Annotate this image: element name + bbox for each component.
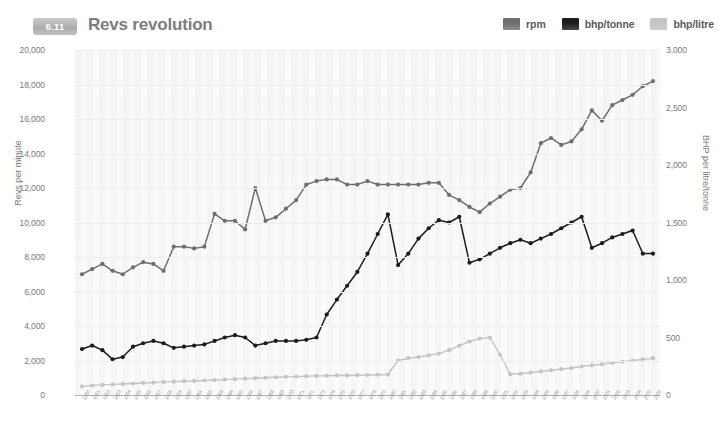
data-point-marker[interactable] (376, 373, 380, 377)
data-point-marker[interactable] (620, 98, 624, 102)
data-point-marker[interactable] (202, 245, 206, 249)
data-point-marker[interactable] (437, 181, 441, 185)
data-point-marker[interactable] (212, 339, 216, 343)
data-point-marker[interactable] (590, 363, 594, 367)
data-point-marker[interactable] (498, 246, 502, 250)
data-point-marker[interactable] (620, 232, 624, 236)
data-point-marker[interactable] (539, 141, 543, 145)
data-point-marker[interactable] (192, 379, 196, 383)
data-point-marker[interactable] (376, 232, 380, 236)
data-point-marker[interactable] (263, 376, 267, 380)
data-point-marker[interactable] (355, 373, 359, 377)
data-point-marker[interactable] (161, 380, 165, 384)
data-point-marker[interactable] (518, 372, 522, 376)
data-point-marker[interactable] (631, 93, 635, 97)
data-point-marker[interactable] (151, 262, 155, 266)
data-point-marker[interactable] (151, 339, 155, 343)
data-point-marker[interactable] (233, 333, 237, 337)
data-point-marker[interactable] (508, 372, 512, 376)
data-point-marker[interactable] (569, 366, 573, 370)
data-point-marker[interactable] (651, 79, 655, 83)
data-point-marker[interactable] (335, 297, 339, 301)
data-point-marker[interactable] (529, 370, 533, 374)
data-point-marker[interactable] (304, 374, 308, 378)
data-point-marker[interactable] (416, 355, 420, 359)
data-point-marker[interactable] (447, 193, 451, 197)
data-point-marker[interactable] (314, 374, 318, 378)
data-point-marker[interactable] (314, 179, 318, 183)
data-point-marker[interactable] (100, 348, 104, 352)
data-point-marker[interactable] (467, 339, 471, 343)
data-point-marker[interactable] (406, 251, 410, 255)
data-point-marker[interactable] (274, 215, 278, 219)
data-point-marker[interactable] (559, 367, 563, 371)
data-point-marker[interactable] (253, 376, 257, 380)
data-point-marker[interactable] (141, 260, 145, 264)
data-point-marker[interactable] (365, 251, 369, 255)
legend-item-bhp-tonne[interactable]: bhp/tonne (562, 18, 635, 30)
data-point-marker[interactable] (304, 338, 308, 342)
data-point-marker[interactable] (488, 335, 492, 339)
data-point-marker[interactable] (416, 182, 420, 186)
data-point-marker[interactable] (549, 136, 553, 140)
data-point-marker[interactable] (243, 227, 247, 231)
data-point-marker[interactable] (335, 177, 339, 181)
data-point-marker[interactable] (437, 352, 441, 356)
data-point-marker[interactable] (172, 380, 176, 384)
data-point-marker[interactable] (580, 215, 584, 219)
data-point-marker[interactable] (161, 341, 165, 345)
data-point-marker[interactable] (539, 237, 543, 241)
data-point-marker[interactable] (233, 377, 237, 381)
data-point-marker[interactable] (498, 353, 502, 357)
data-point-marker[interactable] (110, 269, 114, 273)
data-point-marker[interactable] (355, 182, 359, 186)
data-point-marker[interactable] (406, 182, 410, 186)
data-point-marker[interactable] (253, 343, 257, 347)
data-point-marker[interactable] (529, 170, 533, 174)
data-point-marker[interactable] (212, 212, 216, 216)
data-point-marker[interactable] (457, 198, 461, 202)
legend-item-rpm[interactable]: rpm (503, 18, 546, 30)
data-point-marker[interactable] (549, 232, 553, 236)
data-point-marker[interactable] (641, 251, 645, 255)
data-point-marker[interactable] (365, 373, 369, 377)
data-point-marker[interactable] (110, 382, 114, 386)
data-point-marker[interactable] (447, 348, 451, 352)
data-point-marker[interactable] (518, 238, 522, 242)
data-point-marker[interactable] (314, 335, 318, 339)
data-point-marker[interactable] (100, 262, 104, 266)
data-point-marker[interactable] (610, 103, 614, 107)
data-point-marker[interactable] (284, 339, 288, 343)
data-point-marker[interactable] (467, 205, 471, 209)
data-point-marker[interactable] (223, 377, 227, 381)
data-point-marker[interactable] (427, 353, 431, 357)
data-point-marker[interactable] (212, 378, 216, 382)
data-point-marker[interactable] (529, 241, 533, 245)
data-point-marker[interactable] (478, 210, 482, 214)
data-point-marker[interactable] (161, 269, 165, 273)
data-point-marker[interactable] (294, 375, 298, 379)
data-point-marker[interactable] (539, 369, 543, 373)
data-point-marker[interactable] (284, 207, 288, 211)
data-point-marker[interactable] (600, 241, 604, 245)
data-point-marker[interactable] (651, 251, 655, 255)
data-point-marker[interactable] (325, 374, 329, 378)
data-point-marker[interactable] (90, 267, 94, 271)
data-point-marker[interactable] (202, 378, 206, 382)
data-point-marker[interactable] (559, 143, 563, 147)
data-point-marker[interactable] (90, 343, 94, 347)
data-point-marker[interactable] (376, 182, 380, 186)
data-point-marker[interactable] (569, 139, 573, 143)
data-point-marker[interactable] (172, 346, 176, 350)
data-point-marker[interactable] (488, 201, 492, 205)
data-point-marker[interactable] (386, 212, 390, 216)
data-point-marker[interactable] (284, 375, 288, 379)
data-point-marker[interactable] (335, 373, 339, 377)
data-point-marker[interactable] (182, 345, 186, 349)
data-point-marker[interactable] (325, 177, 329, 181)
data-point-marker[interactable] (355, 270, 359, 274)
data-point-marker[interactable] (243, 377, 247, 381)
data-point-marker[interactable] (396, 182, 400, 186)
data-point-marker[interactable] (172, 245, 176, 249)
data-point-marker[interactable] (580, 364, 584, 368)
